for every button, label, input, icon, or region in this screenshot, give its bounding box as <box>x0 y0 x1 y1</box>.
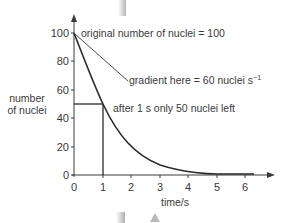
annotation-original-number: original number of nuclei = 100 <box>81 27 225 39</box>
scan-shadow-bottom <box>116 212 125 223</box>
y-tick-label: 100 <box>51 27 69 39</box>
x-tick-label: 6 <box>242 181 248 193</box>
chart-svg: 0 20 40 60 80 100 0 1 2 3 4 5 6 time/s n… <box>0 0 290 223</box>
x-axis-arrow-icon <box>267 172 275 178</box>
x-tick-label: 0 <box>71 181 77 193</box>
y-tick-label: 0 <box>63 169 69 181</box>
y-ticks: 0 20 40 60 80 100 <box>51 27 74 181</box>
annotation-gradient-text: gradient here = 60 nuclei s <box>129 74 253 86</box>
x-tick-label: 4 <box>185 181 191 193</box>
x-axis-label: time/s <box>161 196 189 208</box>
decay-chart: 0 20 40 60 80 100 0 1 2 3 4 5 6 time/s n… <box>0 0 290 223</box>
annotation-half-remaining: after 1 s only 50 nuclei left <box>113 102 235 114</box>
y-axis-arrow-icon <box>71 14 77 22</box>
y-tick-label: 60 <box>57 84 69 96</box>
annotation-gradient-superscript: −1 <box>253 74 261 81</box>
y-axis-label-line2: of nuclei <box>7 104 46 116</box>
y-tick-label: 20 <box>57 141 69 153</box>
x-ticks: 0 1 2 3 4 5 6 <box>71 175 248 193</box>
y-axis-label-line1: number <box>9 92 45 104</box>
x-tick-label: 5 <box>214 181 220 193</box>
scan-shadow-top <box>118 0 126 16</box>
x-tick-label: 1 <box>100 181 106 193</box>
x-tick-label: 2 <box>128 181 134 193</box>
triangle-mark-icon <box>150 213 160 222</box>
y-tick-label: 40 <box>57 112 69 124</box>
x-tick-label: 3 <box>157 181 163 193</box>
y-tick-label: 80 <box>57 55 69 67</box>
annotation-gradient: gradient here = 60 nuclei s−1 <box>129 74 261 86</box>
